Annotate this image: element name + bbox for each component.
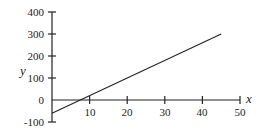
x-tick-label: 40 (197, 106, 209, 118)
y-tick-label: 100 (28, 72, 45, 84)
y-tick-label: 0 (39, 94, 45, 106)
y-tick-label: 400 (28, 6, 45, 18)
data-line (52, 34, 221, 113)
x-axis-label: x (245, 91, 252, 106)
y-tick-label: 300 (28, 28, 45, 40)
y-axis-label: y (18, 63, 26, 78)
x-tick-label: 50 (235, 106, 247, 118)
x-tick-label: 10 (85, 106, 97, 118)
x-tick-label: 20 (122, 106, 134, 118)
y-tick-label: -100 (24, 116, 45, 128)
line-chart: 400 300 200 100 0 -100 10 20 30 40 50 y … (0, 0, 265, 133)
x-tick-label: 30 (160, 106, 172, 118)
y-tick-label: 200 (28, 50, 45, 62)
